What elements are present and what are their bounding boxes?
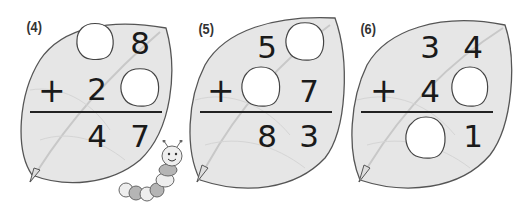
bottom-tens-digit: 2 bbox=[82, 74, 112, 105]
answer-blank[interactable] bbox=[74, 22, 116, 64]
answer-blank[interactable] bbox=[239, 64, 283, 110]
sum-line bbox=[361, 111, 493, 113]
answer-blank[interactable] bbox=[283, 20, 327, 64]
problem-5: (5) 5 + 7 8 3 bbox=[175, 0, 350, 205]
sum-line bbox=[30, 111, 162, 113]
problem-6: (6) 3 4 + 4 1 bbox=[345, 0, 520, 205]
plus-sign: + bbox=[38, 74, 66, 107]
result-tens-digit: 4 bbox=[82, 121, 112, 152]
answer-blank[interactable] bbox=[118, 66, 162, 110]
answer-blank[interactable] bbox=[403, 114, 449, 162]
answer-blank[interactable] bbox=[449, 64, 491, 110]
top-tens-digit: 5 bbox=[252, 32, 282, 63]
bottom-ones-digit: 7 bbox=[294, 76, 324, 107]
sum-line bbox=[200, 111, 332, 113]
plus-sign: + bbox=[207, 74, 235, 107]
top-ones-digit: 8 bbox=[125, 28, 155, 59]
result-ones-digit: 1 bbox=[458, 121, 488, 152]
result-tens-digit: 8 bbox=[252, 121, 282, 152]
plus-sign: + bbox=[370, 74, 398, 107]
result-ones-digit: 3 bbox=[294, 121, 324, 152]
top-ones-digit: 4 bbox=[458, 32, 488, 63]
bottom-tens-digit: 4 bbox=[415, 76, 445, 107]
top-tens-digit: 3 bbox=[415, 32, 445, 63]
